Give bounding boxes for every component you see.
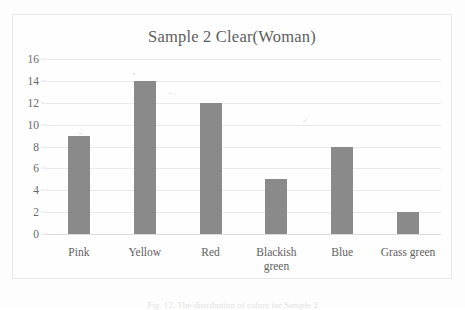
scan-speckle — [133, 73, 135, 75]
scan-speckle — [79, 133, 82, 134]
bar-series: PinkYellowRedBlackish greenBlueGrass gre… — [46, 59, 441, 234]
figure-caption: Fig. 12. The distribution of colors for … — [0, 300, 465, 310]
bar-blue — [331, 147, 353, 235]
y-tick-label-12: 12 — [28, 97, 40, 109]
gridline-0 — [46, 234, 441, 235]
bar-group: Red — [178, 59, 244, 234]
bar-grass-green — [397, 212, 419, 234]
x-tick-label-pink: Pink — [68, 245, 89, 259]
bar-group: Grass green — [375, 59, 441, 234]
plot-area: 0246810121416 PinkYellowRedBlackish gree… — [46, 59, 441, 234]
scan-speckle — [169, 93, 172, 94]
chart-title: Sample 2 Clear(Woman) — [13, 27, 451, 47]
x-tick-label-red: Red — [201, 245, 220, 259]
chart-frame: Sample 2 Clear(Woman) 0246810121416 Pink… — [12, 14, 452, 279]
bar-yellow — [134, 81, 156, 234]
bar-pink — [68, 136, 90, 234]
bar-blackish-green — [265, 179, 287, 234]
y-tick-label-2: 2 — [33, 206, 39, 218]
x-tick-label-blackish-green: Blackish green — [248, 245, 304, 274]
y-tick-label-14: 14 — [28, 75, 40, 87]
bar-group: Yellow — [112, 59, 178, 234]
y-tick-label-6: 6 — [33, 162, 39, 174]
y-tick-label-8: 8 — [33, 141, 39, 153]
bar-group: Blackish green — [244, 59, 310, 234]
bar-group: Blue — [309, 59, 375, 234]
y-tick-label-4: 4 — [33, 184, 39, 196]
y-tick-label-0: 0 — [33, 228, 39, 240]
y-tick-label-10: 10 — [28, 119, 40, 131]
x-tick-label-grass-green: Grass green — [380, 245, 436, 259]
x-tick-label-yellow: Yellow — [128, 245, 161, 259]
x-tick-label-blue: Blue — [331, 245, 353, 259]
y-tick-label-16: 16 — [28, 53, 40, 65]
bar-group: Pink — [46, 59, 112, 234]
bar-red — [200, 103, 222, 234]
